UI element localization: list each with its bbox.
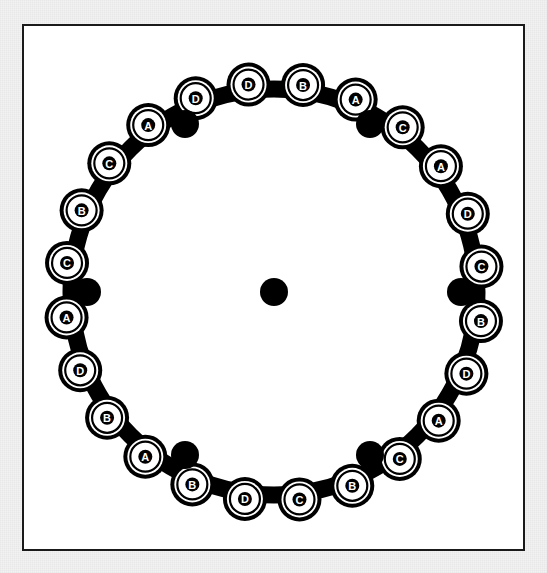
bead-13-D[interactable]: D bbox=[223, 477, 267, 521]
bead-letter-disc bbox=[102, 156, 116, 170]
bead-letter-disc bbox=[60, 310, 74, 324]
dot-center bbox=[260, 278, 288, 306]
diagram-stage: BACADCBDACBCDBABDACBCADD bbox=[24, 26, 527, 553]
bead-22-A[interactable]: A bbox=[126, 103, 170, 147]
dot-right bbox=[447, 278, 475, 306]
bead-letter-disc bbox=[474, 314, 488, 328]
dot-left bbox=[73, 278, 101, 306]
bead-letter-disc bbox=[238, 492, 252, 506]
bead-letter-disc bbox=[432, 414, 446, 428]
bead-letter-disc bbox=[296, 78, 310, 92]
bead-1-B[interactable]: B bbox=[281, 63, 325, 107]
bead-21-C[interactable]: C bbox=[87, 141, 131, 185]
bead-letter-disc bbox=[100, 411, 114, 425]
bead-letter-disc bbox=[349, 93, 363, 107]
bead-15-A[interactable]: A bbox=[123, 435, 167, 479]
bead-5-D[interactable]: D bbox=[446, 192, 490, 236]
bead-letter-disc bbox=[60, 256, 74, 270]
bead-12-C[interactable]: C bbox=[277, 477, 321, 521]
bead-20-B[interactable]: B bbox=[60, 188, 104, 232]
bead-14-B[interactable]: B bbox=[170, 462, 214, 506]
bead-letter-disc bbox=[141, 118, 155, 132]
bead-letter-disc bbox=[292, 492, 306, 506]
bead-9-A[interactable]: A bbox=[417, 399, 461, 443]
dot-lower-right bbox=[356, 441, 384, 469]
bead-24-D[interactable]: D bbox=[227, 63, 271, 107]
bead-16-B[interactable]: B bbox=[85, 396, 129, 440]
bead-7-B[interactable]: B bbox=[459, 299, 503, 343]
bead-19-C[interactable]: C bbox=[45, 241, 89, 285]
dot-upper-left bbox=[171, 110, 199, 138]
bead-letter-disc bbox=[434, 159, 448, 173]
bead-8-D[interactable]: D bbox=[444, 352, 488, 396]
bead-letter-disc bbox=[396, 120, 410, 134]
bead-letter-disc bbox=[138, 450, 152, 464]
bead-letter-disc bbox=[189, 91, 203, 105]
bead-10-C[interactable]: C bbox=[378, 437, 422, 481]
bead-11-B[interactable]: B bbox=[330, 464, 374, 508]
bead-4-A[interactable]: A bbox=[419, 144, 463, 188]
dot-upper-right bbox=[356, 110, 384, 138]
bead-letter-disc bbox=[242, 78, 256, 92]
bead-letter-disc bbox=[474, 260, 488, 274]
bead-letter-disc bbox=[345, 479, 359, 493]
bead-letter-disc bbox=[461, 207, 475, 221]
bead-letter-disc bbox=[185, 477, 199, 491]
bead-17-D[interactable]: D bbox=[58, 348, 102, 392]
bead-letter-disc bbox=[73, 363, 87, 377]
bead-letter-disc bbox=[393, 452, 407, 466]
bead-letter-disc bbox=[459, 367, 473, 381]
bead-ring-diagram: BACADCBDACBCDBABDACBCADD bbox=[24, 26, 527, 553]
dot-lower-left bbox=[171, 441, 199, 469]
figure-frame: BACADCBDACBCDBABDACBCADD bbox=[22, 24, 525, 551]
bead-letter-disc bbox=[75, 203, 89, 217]
bead-3-C[interactable]: C bbox=[381, 105, 425, 149]
